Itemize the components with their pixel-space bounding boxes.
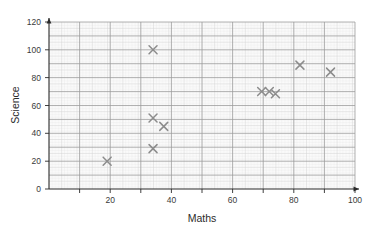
x-tick-label: 100 <box>348 195 362 205</box>
y-tick-label: 80 <box>32 73 42 83</box>
scatter-chart: 20 40 60 80 100 0 20 40 60 80 100 120 Ma… <box>0 0 371 228</box>
x-axis-title: Maths <box>188 212 217 224</box>
x-tick-label: 40 <box>167 195 177 205</box>
y-axis-title: Science <box>9 86 21 124</box>
chart-canvas: 20 40 60 80 100 0 20 40 60 80 100 120 Ma… <box>0 0 371 228</box>
y-tick-label: 40 <box>32 128 42 138</box>
y-tick-label: 60 <box>32 101 42 111</box>
x-tick-label: 80 <box>289 195 299 205</box>
y-tick-label: 120 <box>27 17 41 27</box>
y-tick-label: 20 <box>32 156 42 166</box>
x-tick-label: 20 <box>105 195 115 205</box>
x-tick-label: 60 <box>228 195 238 205</box>
y-tick-label: 100 <box>27 45 41 55</box>
y-tick-label: 0 <box>36 184 41 194</box>
